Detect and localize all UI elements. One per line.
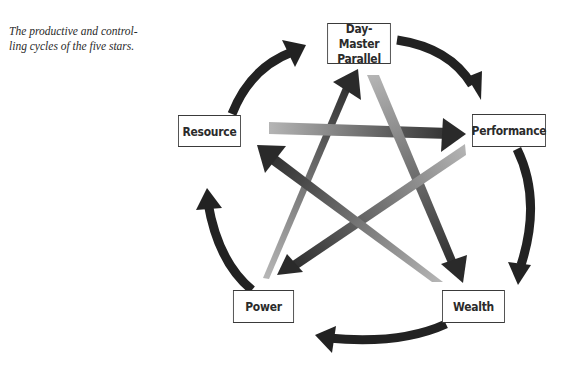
node-label: Wealth — [453, 299, 494, 314]
arc-performance-to-wealth — [517, 149, 531, 265]
node-resource: Resource — [178, 115, 241, 147]
arrowhead-icon — [315, 326, 336, 353]
controlling-cycle — [257, 69, 467, 283]
arrowhead-icon — [196, 188, 222, 210]
node-day-master-parallel: Day-Master Parallel — [327, 23, 391, 64]
arrowhead-icon — [508, 262, 531, 285]
arc-daymaster-to-performance — [397, 40, 472, 85]
node-power: Power — [233, 290, 294, 323]
arc-wealth-to-power — [328, 324, 446, 340]
arc-resource-to-daymaster — [232, 52, 292, 114]
node-wealth: Wealth — [442, 290, 505, 323]
node-label: Performance — [472, 123, 547, 138]
node-label-line2: Parallel — [337, 51, 381, 66]
node-performance: Performance — [472, 114, 546, 147]
node-label-line1: Day-Master — [328, 21, 390, 51]
node-label: Resource — [183, 124, 237, 139]
line-resource-to-performance — [269, 122, 450, 139]
arc-power-to-resource — [208, 203, 252, 290]
node-label: Power — [245, 299, 282, 314]
